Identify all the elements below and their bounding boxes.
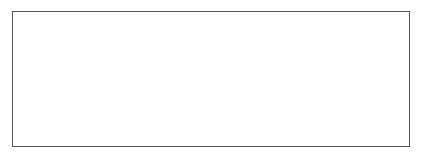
chart-panels [0,0,423,155]
